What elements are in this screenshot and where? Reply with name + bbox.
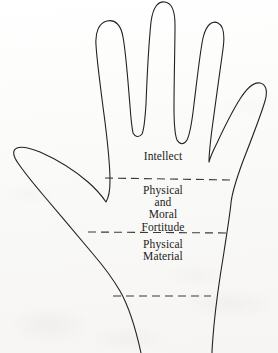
zone-label-physical-and-moral-fortitude: Physical and Moral Fortitude	[113, 184, 213, 233]
divider-upper	[105, 178, 233, 180]
zone-label-line: Material	[113, 250, 213, 262]
figure-canvas: Intellect Physical and Moral Fortitude P…	[0, 0, 278, 353]
hand-diagram-svg	[0, 0, 278, 353]
zone-label-line: Physical	[113, 238, 213, 250]
zone-label-line: Fortitude	[113, 221, 213, 233]
zone-label-intellect: Intellect	[113, 150, 213, 162]
zone-label-line: Moral	[113, 208, 213, 220]
zone-label-line: Physical	[113, 184, 213, 196]
zone-label-physical-material: Physical Material	[113, 238, 213, 262]
hand-outline	[14, 2, 267, 353]
hand-outline-group	[14, 2, 267, 353]
zone-label-line: Intellect	[113, 150, 213, 162]
zone-label-line: and	[113, 196, 213, 208]
